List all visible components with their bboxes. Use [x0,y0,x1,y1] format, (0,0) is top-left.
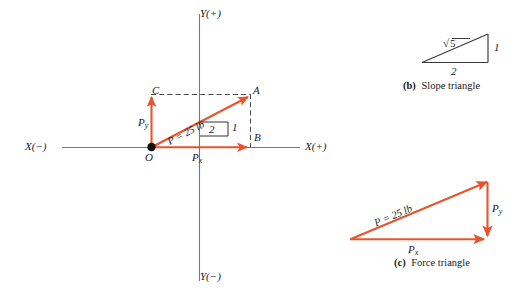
force-triangle-vertical-subscript: y [499,207,503,216]
force-triangle-caption-tag: (c) [394,257,406,268]
force-triangle-horizontal-subscript: x [415,248,419,257]
force-triangle-vertical-label: Py [492,203,502,216]
force-triangle-horizontal-label: Px [408,244,418,257]
force-triangle-caption: (c) Force triangle [394,258,470,269]
force-triangle-graphics [0,0,521,296]
force-triangle-horizontal-symbol: P [408,243,415,255]
figure-canvas: Y(+) Y(−) X(−) X(+) O A B C Py Px P = 25… [0,0,521,296]
force-triangle-caption-text: Force triangle [408,257,470,268]
force-triangle-vertical-symbol: P [492,202,499,214]
force-triangle-hypotenuse [351,182,487,239]
